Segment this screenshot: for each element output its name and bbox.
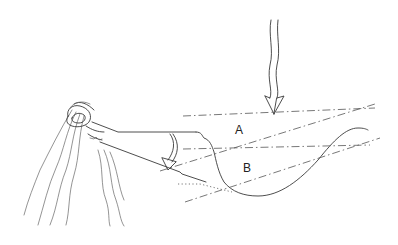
region-b-label: B — [243, 161, 251, 175]
diagram-canvas — [0, 0, 398, 245]
dash-dot-reference-lines — [160, 104, 380, 202]
dotted-sightline — [178, 184, 232, 192]
observer-eye-icon — [67, 102, 104, 140]
region-a-label: A — [235, 123, 243, 137]
incoming-wavy-arrow-icon — [265, 20, 284, 114]
rising-heat-lines — [24, 110, 124, 226]
viewing-cone — [92, 122, 368, 196]
curved-rotation-arrow-icon — [162, 134, 177, 170]
